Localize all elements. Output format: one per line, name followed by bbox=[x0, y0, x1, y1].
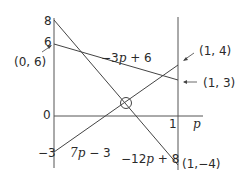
diagram-canvas: 8 6 0 −3 1 p (0, 6) (1, 4) (1, 3) (1,−4)… bbox=[0, 0, 246, 183]
arrowhead-1-3-icon bbox=[183, 80, 187, 84]
label-7p-minus3: 7p − 3 bbox=[70, 146, 111, 160]
label-minus12p-plus8: −12p + 8 bbox=[121, 152, 179, 166]
tick-0: 0 bbox=[43, 108, 51, 122]
line-minus12p-plus8 bbox=[54, 20, 178, 165]
tick-8: 8 bbox=[44, 14, 52, 28]
point-1-minus4-label: (1,−4) bbox=[182, 157, 221, 171]
intersection-marker-icon bbox=[121, 98, 132, 109]
p-axis-label: p bbox=[193, 117, 201, 131]
tick-minus3: −3 bbox=[38, 146, 56, 160]
point-1-4-label: (1, 4) bbox=[199, 44, 231, 58]
line-7p-minus3 bbox=[54, 65, 178, 152]
point-0-6-label: (0, 6) bbox=[14, 55, 46, 69]
point-1-3-label: (1, 3) bbox=[203, 76, 235, 90]
label-minus3p-plus6: −3p + 6 bbox=[101, 51, 152, 65]
tick-1: 1 bbox=[169, 117, 177, 131]
